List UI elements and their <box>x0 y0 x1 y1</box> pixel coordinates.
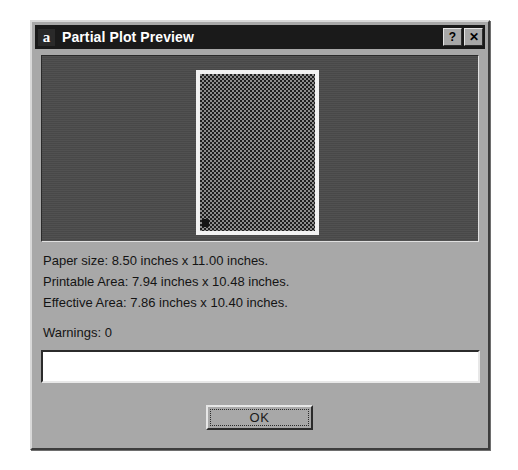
plot-preview-panel <box>41 55 479 242</box>
ok-focus-rect: OK <box>210 409 309 426</box>
page-thumbnail <box>196 70 319 235</box>
warnings-label: Warnings: 0 <box>43 325 112 340</box>
paper-size-line: Paper size: 8.50 inches x 11.00 inches. <box>43 250 463 271</box>
effective-area-line: Effective Area: 7.86 inches x 10.40 inch… <box>43 292 463 313</box>
partial-plot-preview-dialog: a Partial Plot Preview ? ✕ Paper size: 8… <box>30 20 490 450</box>
printable-area-line: Printable Area: 7.94 inches x 10.48 inch… <box>43 271 463 292</box>
page-mark-icon <box>202 219 209 227</box>
page-hatch-fill <box>200 74 315 231</box>
app-icon: a <box>38 29 55 46</box>
help-button[interactable]: ? <box>443 28 462 46</box>
close-icon[interactable]: ✕ <box>464 28 483 46</box>
title-bar[interactable]: a Partial Plot Preview ? ✕ <box>35 25 485 49</box>
ok-button[interactable]: OK <box>206 405 313 430</box>
warnings-input[interactable] <box>41 350 480 383</box>
window-title: Partial Plot Preview <box>62 29 441 45</box>
paper-info-block: Paper size: 8.50 inches x 11.00 inches. … <box>43 250 463 313</box>
ok-button-label: OK <box>250 410 270 425</box>
